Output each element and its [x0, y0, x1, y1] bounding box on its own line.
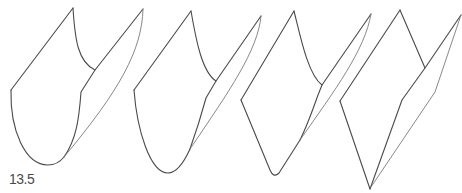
shape-1 [11, 8, 143, 165]
shape-2 [134, 11, 261, 173]
shape-4 [340, 10, 461, 189]
figure-label: 13.5 [9, 171, 34, 188]
fold-diagram [0, 0, 462, 193]
shape-3 [241, 11, 371, 175]
